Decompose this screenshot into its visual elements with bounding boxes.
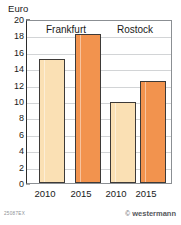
bar-sheen [115,103,116,182]
y-tick-label-16: 16 [2,48,24,57]
copyright-notice: © westermann [125,210,176,218]
y-tick-label-4: 4 [2,147,24,156]
copyright-symbol: © [125,210,130,217]
bar-frankfurt-2010 [39,59,65,183]
x-tick-label-frankfurt-2015: 2015 [61,188,101,199]
source-code-label: 25087EX [4,211,25,217]
bar-rostock-2015 [140,81,166,183]
y-tick-label-0: 0 [2,180,24,189]
bar-rostock-2010 [110,102,136,183]
bar-sheen [44,60,45,182]
bar-sheen [80,35,81,182]
y-tick-label-6: 6 [2,130,24,139]
group-label-rostock: Rostock [101,24,169,35]
plot-area: Frankfurt Rostock [26,20,172,184]
publisher-name: westermann [132,209,176,218]
y-tick-label-14: 14 [2,65,24,74]
x-tick-label-rostock-2015: 2015 [126,188,166,199]
y-tick-label-8: 8 [2,114,24,123]
y-tick-label-12: 12 [2,81,24,90]
y-tick-label-18: 18 [2,32,24,41]
y-tick-label-2: 2 [2,163,24,172]
x-tick-label-frankfurt-2010: 2010 [25,188,65,199]
y-tick-label-10: 10 [2,98,24,107]
bar-chart-figure: Euro 20 18 16 14 12 10 8 6 4 2 0 [0,0,181,225]
bar-frankfurt-2015 [75,34,101,183]
y-axis-unit-label: Euro [8,4,28,14]
bar-sheen [145,82,146,182]
y-axis-tick-labels: 20 18 16 14 12 10 8 6 4 2 0 [0,20,24,184]
y-tick-label-20: 20 [2,16,24,25]
